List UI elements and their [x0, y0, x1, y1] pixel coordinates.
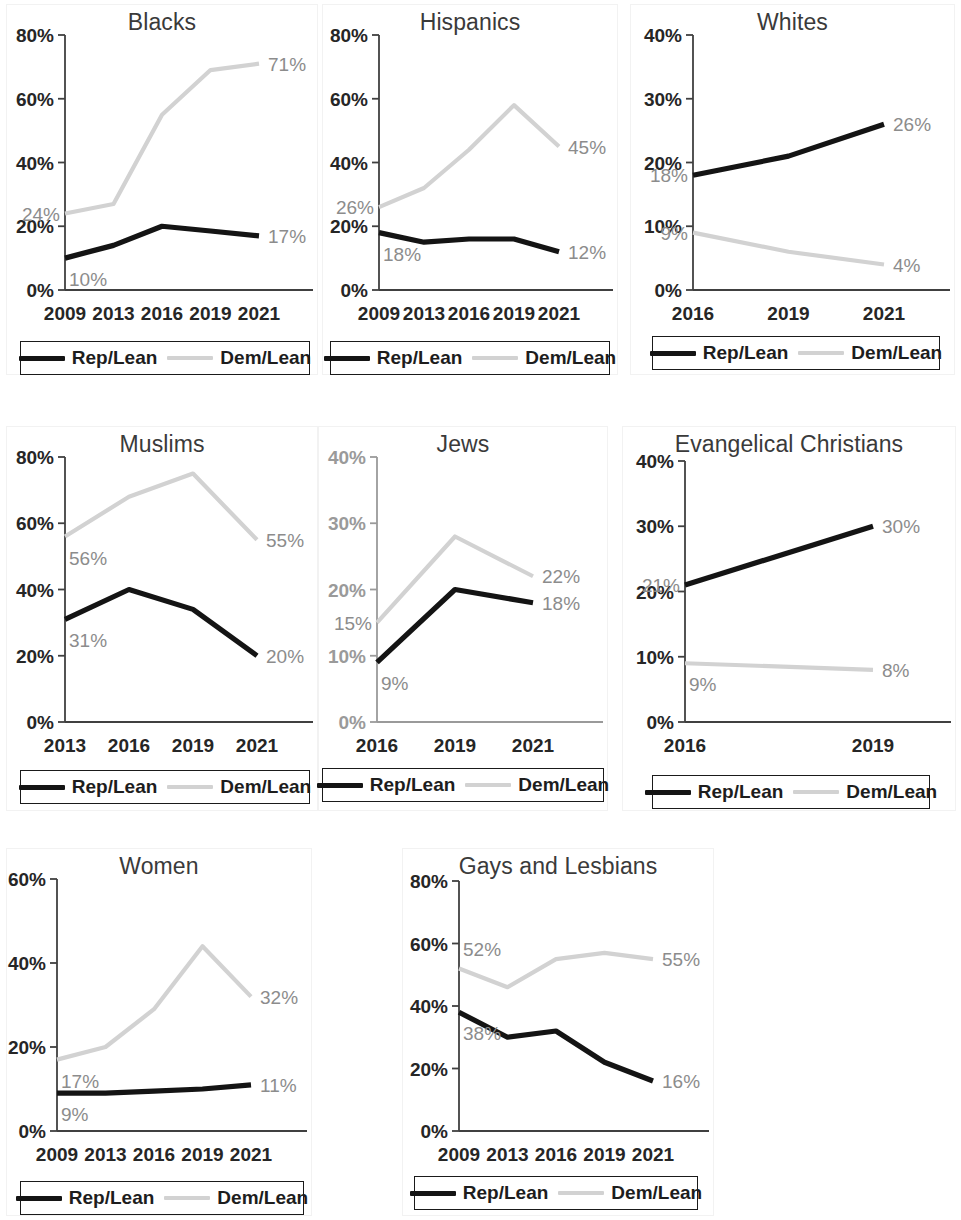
chart-legend-blacks: Rep/LeanDem/Lean — [20, 341, 310, 375]
series-line-dem — [377, 537, 533, 623]
x-tick-label: 2021 — [863, 303, 906, 324]
chart-panel-jews: Jews0%10%20%30%40%20162019202115%22%9%18… — [318, 426, 608, 811]
legend-item-dem-label: Dem/Lean — [846, 781, 937, 803]
y-tick-label: 10% — [636, 647, 674, 668]
series-line-dem — [379, 105, 559, 207]
rep-line-swatch-icon — [19, 785, 65, 790]
dem-line-swatch-icon — [167, 785, 213, 789]
data-label: 9% — [689, 674, 717, 695]
x-tick-label: 2013 — [84, 1144, 126, 1165]
plot-area-jews: 0%10%20%30%40%20162019202115%22%9%18% — [319, 427, 608, 811]
plot-area-gays-and-lesbians: 0%20%40%60%80%2009201320162019202152%55%… — [403, 849, 714, 1216]
chart-panel-whites: Whites0%10%20%30%40%20162019202118%26%9%… — [630, 4, 955, 375]
legend-item-rep: Rep/Lean — [19, 776, 158, 798]
x-tick-label: 2019 — [493, 303, 535, 324]
chart-legend-hispanics: Rep/LeanDem/Lean — [330, 341, 610, 375]
data-label: 11% — [260, 1075, 297, 1096]
x-tick-label: 2019 — [434, 735, 476, 756]
x-tick-label: 2016 — [141, 303, 183, 324]
y-tick-label: 20% — [410, 1059, 448, 1080]
chart-title-blacks: Blacks — [7, 9, 317, 36]
plot-area-blacks: 0%20%40%60%80%2009201320162019202124%71%… — [7, 5, 318, 375]
legend-item-rep: Rep/Lean — [650, 342, 789, 364]
data-label: 9% — [381, 673, 409, 694]
plot-area-evangelical-christians: 0%10%20%30%40%2016201921%30%9%8% — [623, 427, 956, 811]
legend-item-dem: Dem/Lean — [793, 781, 937, 803]
legend-item-dem: Dem/Lean — [798, 342, 942, 364]
chart-title-jews: Jews — [319, 431, 607, 458]
data-label: 71% — [268, 54, 306, 75]
chart-panel-hispanics: Hispanics0%20%40%60%80%20092013201620192… — [322, 4, 618, 375]
chart-legend-jews: Rep/LeanDem/Lean — [322, 768, 604, 802]
y-tick-label: 60% — [16, 89, 54, 110]
chart-panel-evangelical-christians: Evangelical Christians0%10%20%30%40%2016… — [622, 426, 956, 811]
legend-item-dem-label: Dem/Lean — [217, 1187, 308, 1209]
legend-item-dem: Dem/Lean — [558, 1182, 702, 1204]
series-line-dem — [57, 946, 251, 1059]
legend-item-dem: Dem/Lean — [465, 774, 609, 796]
chart-grid: Blacks0%20%40%60%80%20092013201620192021… — [0, 0, 961, 1220]
y-tick-label: 30% — [636, 516, 674, 537]
data-label: 4% — [893, 255, 921, 276]
x-tick-label: 2021 — [238, 303, 281, 324]
y-tick-label: 30% — [644, 89, 682, 110]
x-tick-label: 2009 — [438, 1144, 480, 1165]
legend-item-rep-label: Rep/Lean — [377, 347, 463, 369]
x-tick-label: 2009 — [358, 303, 400, 324]
y-tick-label: 60% — [16, 513, 54, 534]
chart-legend-whites: Rep/LeanDem/Lean — [652, 336, 940, 370]
rep-line-swatch-icon — [317, 783, 363, 788]
x-tick-label: 2009 — [36, 1144, 78, 1165]
y-tick-label: 20% — [330, 216, 368, 237]
y-tick-label: 10% — [328, 646, 366, 667]
rep-line-swatch-icon — [645, 790, 691, 795]
rep-line-swatch-icon — [324, 356, 370, 361]
data-label: 38% — [463, 1023, 501, 1044]
data-label: 30% — [882, 516, 920, 537]
y-tick-label: 40% — [8, 953, 46, 974]
legend-item-rep-label: Rep/Lean — [69, 1187, 155, 1209]
x-tick-label: 2009 — [44, 303, 86, 324]
data-label: 10% — [69, 269, 107, 290]
rep-line-swatch-icon — [19, 356, 65, 361]
legend-item-rep-label: Rep/Lean — [72, 776, 158, 798]
legend-item-rep-label: Rep/Lean — [698, 781, 784, 803]
x-tick-label: 2016 — [664, 735, 706, 756]
y-tick-label: 20% — [8, 1037, 46, 1058]
data-label: 17% — [268, 226, 306, 247]
y-tick-label: 0% — [339, 712, 367, 733]
legend-item-rep-label: Rep/Lean — [703, 342, 789, 364]
dem-line-swatch-icon — [798, 351, 844, 355]
series-line-dem — [685, 663, 873, 670]
legend-item-rep-label: Rep/Lean — [370, 774, 456, 796]
data-label: 20% — [266, 646, 304, 667]
data-label: 9% — [61, 1104, 89, 1125]
y-tick-label: 0% — [341, 280, 369, 301]
y-tick-label: 40% — [16, 153, 54, 174]
x-tick-label: 2016 — [133, 1144, 175, 1165]
rep-line-swatch-icon — [410, 1191, 456, 1196]
series-line-rep — [685, 526, 873, 585]
legend-item-dem: Dem/Lean — [167, 776, 311, 798]
plot-area-muslims: 0%20%40%60%80%201320162019202156%55%31%2… — [7, 427, 318, 811]
y-tick-label: 40% — [330, 153, 368, 174]
x-tick-label: 2016 — [448, 303, 490, 324]
data-label: 18% — [542, 593, 580, 614]
rep-line-swatch-icon — [650, 351, 696, 356]
data-label: 21% — [642, 575, 680, 596]
chart-title-women: Women — [7, 853, 311, 880]
data-label: 26% — [893, 114, 931, 135]
data-label: 18% — [383, 244, 421, 265]
data-label: 17% — [61, 1071, 99, 1092]
y-tick-label: 30% — [328, 513, 366, 534]
data-label: 45% — [568, 137, 606, 158]
x-tick-label: 2019 — [852, 735, 894, 756]
legend-item-rep-label: Rep/Lean — [463, 1182, 549, 1204]
data-label: 9% — [661, 223, 689, 244]
legend-item-rep: Rep/Lean — [410, 1182, 549, 1204]
dem-line-swatch-icon — [164, 1196, 210, 1200]
chart-legend-gays-and-lesbians: Rep/LeanDem/Lean — [414, 1176, 698, 1210]
y-tick-label: 20% — [16, 646, 54, 667]
x-tick-label: 2021 — [632, 1144, 675, 1165]
x-tick-label: 2013 — [92, 303, 134, 324]
